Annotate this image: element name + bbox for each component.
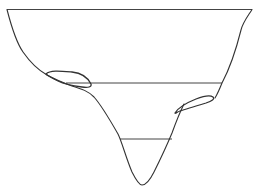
right-lens-body: [175, 96, 214, 113]
basin-profile-outline: [7, 10, 252, 186]
basin-cross-section-diagram: [0, 0, 258, 195]
left-lens-body: [46, 71, 91, 87]
